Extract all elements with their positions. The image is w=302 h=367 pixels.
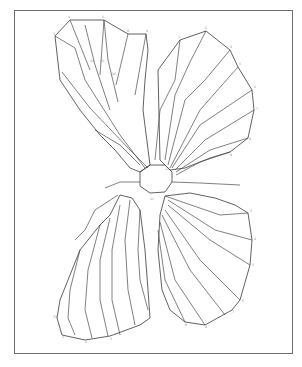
dot-number: 7 [232, 310, 234, 314]
dot-number-labels: 46893242526124567893456789321331112 [53, 15, 258, 344]
wing-vein [70, 20, 90, 70]
dot-number: 9 [185, 323, 187, 327]
dot-number: 7 [256, 107, 258, 111]
dot-number: 3 [53, 32, 55, 36]
wing-vein [100, 20, 104, 75]
dot-number: 33 [53, 315, 57, 319]
dot-number: 8 [127, 29, 129, 33]
wing-vein [100, 218, 110, 336]
wing-vein [112, 205, 120, 335]
dot-number: 3 [110, 337, 112, 341]
dot-number: 25 [100, 59, 104, 63]
dot-number: 1 [178, 35, 180, 39]
dot-number: 4 [230, 45, 232, 49]
dot-number: 2 [85, 340, 87, 344]
wing-vein [168, 200, 252, 240]
dot-number: 9 [146, 29, 148, 33]
wing-vein [172, 90, 252, 168]
dot-number: 4 [254, 237, 256, 241]
dot-number: 8 [205, 325, 207, 329]
wing-vein [172, 182, 240, 185]
wing-vein [85, 225, 100, 338]
dot-number: 9 [230, 153, 232, 157]
lower-left-wing-outline [57, 195, 150, 340]
dot-number: 5 [239, 62, 241, 66]
wing-vein [168, 50, 230, 165]
wing-vein [55, 36, 145, 168]
wing-vein [62, 72, 148, 168]
dot-number: 6 [254, 85, 256, 89]
wing-vein [160, 222, 205, 325]
wing-vein [165, 31, 206, 160]
dot-number: 24 [90, 59, 94, 63]
wing-vein [104, 20, 118, 102]
wing-outlines [55, 20, 254, 340]
dot-number: 1 [62, 335, 64, 339]
dot-number: 8 [249, 137, 251, 141]
butterfly-dot-to-dot: 46893242526124567893456789321331112 [0, 0, 302, 367]
dot-number: 11 [150, 197, 154, 201]
wing-vein [95, 130, 140, 165]
wing-vein [158, 230, 185, 322]
wing-vein [116, 34, 128, 85]
dot-number: 6 [242, 299, 244, 303]
wing-vein [176, 152, 230, 175]
lower-right-wing-outline [158, 193, 252, 325]
dot-number: 12 [165, 167, 169, 171]
wing-vein [68, 250, 80, 335]
wing-vein [105, 182, 140, 188]
wing-veins [55, 20, 254, 338]
wing-vein [75, 195, 118, 240]
dot-number: 26 [112, 72, 116, 76]
wing-vein [138, 210, 148, 310]
dot-number: 4 [68, 15, 70, 19]
dot-number: 2 [205, 26, 207, 30]
wing-vein [125, 200, 135, 325]
dot-number: 3 [250, 209, 252, 213]
dot-number: 6 [102, 15, 104, 19]
dot-number: 5 [252, 263, 254, 267]
